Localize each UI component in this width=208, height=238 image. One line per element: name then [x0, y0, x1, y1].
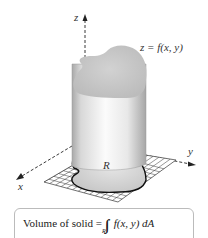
integral-subscript: R: [102, 228, 106, 234]
z-axis-label: z: [74, 12, 78, 23]
y-axis-label: y: [188, 146, 193, 157]
volume-diagram: [0, 0, 208, 238]
surface-label: z = f(x, y): [140, 42, 183, 53]
z-axis: [83, 14, 88, 58]
region-label: R: [103, 160, 110, 171]
surface-top: [73, 46, 146, 99]
formula-prefix: Volume of solid =: [23, 217, 105, 229]
x-axis-label: x: [18, 181, 23, 192]
volume-formula-box: Volume of solid = ∫∫Rf(x, y) dA: [14, 208, 194, 238]
formula-integrand: f(x, y) dA: [114, 217, 155, 229]
